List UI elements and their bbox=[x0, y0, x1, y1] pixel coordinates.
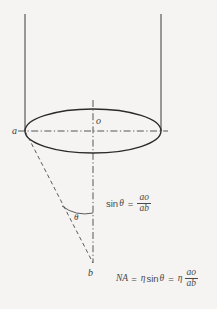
fraction-ao-over-ab: ao ab bbox=[137, 193, 151, 215]
equals-sign-2: = bbox=[165, 274, 177, 284]
theta-symbol-2: θ bbox=[159, 274, 166, 284]
point-label-o: o bbox=[96, 116, 101, 126]
equation-sin-theta: sin θ = ao ab bbox=[106, 193, 152, 215]
fraction-ao-over-ab-2: ao ab bbox=[185, 268, 199, 290]
angle-label-theta: θ bbox=[74, 213, 78, 222]
fraction-denominator-2: ab bbox=[185, 279, 199, 289]
fraction-numerator-2: ao bbox=[185, 268, 199, 278]
eta-symbol-2: η bbox=[177, 274, 184, 284]
sin-function-label-2: sin bbox=[146, 274, 158, 284]
point-label-a: a bbox=[12, 126, 17, 136]
equals-sign-1: = bbox=[128, 274, 140, 284]
equals-sign: = bbox=[125, 199, 137, 209]
eta-symbol-1: η bbox=[140, 274, 147, 284]
sin-function-label: sin bbox=[106, 199, 118, 209]
theta-symbol: θ bbox=[118, 199, 125, 209]
na-symbol: NA bbox=[116, 274, 128, 284]
fraction-denominator: ab bbox=[137, 204, 151, 214]
fraction-numerator: ao bbox=[137, 193, 151, 203]
point-label-b: b bbox=[88, 268, 93, 278]
diagram-canvas bbox=[0, 0, 217, 309]
figure-root: a o b θ sin θ = ao ab NA = η sin θ = η a… bbox=[0, 0, 217, 309]
equation-numerical-aperture: NA = η sin θ = η ao ab bbox=[116, 268, 199, 290]
